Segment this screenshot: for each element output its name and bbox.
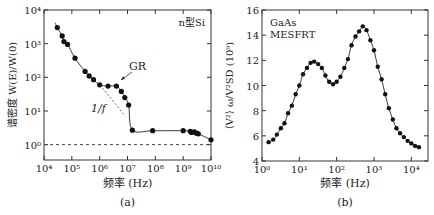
data-point <box>402 135 406 139</box>
data-point <box>126 102 131 107</box>
x-axis-label: 频率 (Hz) <box>320 176 369 190</box>
panel-label: (b) <box>337 196 353 209</box>
data-point <box>361 24 365 28</box>
chart-b: 10⁰10¹10²10³10⁴46810121416GaAsMESFRT频率 (… <box>224 5 428 209</box>
data-point <box>83 69 88 74</box>
x-tick-label: 10¹ <box>291 164 308 175</box>
one-over-f-label: 1/f <box>91 102 108 115</box>
data-point <box>208 137 213 142</box>
y-tick-label: 10 <box>246 81 259 92</box>
figure: 10⁴10⁵10⁶10⁷10⁸10⁹10¹⁰10⁰10¹10²10³10⁴n型S… <box>0 0 434 215</box>
x-tick-label: 10⁶ <box>91 163 108 174</box>
y-tick-label: 6 <box>253 131 259 142</box>
data-point <box>372 48 376 52</box>
data-point <box>297 83 301 87</box>
data-point <box>290 103 294 107</box>
data-point <box>353 34 357 38</box>
data-point <box>346 57 350 61</box>
data-point <box>387 106 391 110</box>
data-point <box>316 62 320 66</box>
data-point <box>119 89 124 94</box>
x-tick-label: 10⁹ <box>175 163 192 174</box>
data-point <box>72 56 77 61</box>
data-point <box>275 132 279 136</box>
data-point <box>130 128 135 133</box>
data-point <box>105 83 110 88</box>
data-point <box>349 43 353 47</box>
y-tick-label: 4 <box>253 156 259 167</box>
data-point <box>196 131 201 136</box>
data-point <box>60 33 65 38</box>
data-point <box>391 117 395 121</box>
data-point <box>271 137 275 141</box>
data-point <box>394 126 398 130</box>
gr-label: GR <box>129 60 147 73</box>
data-point <box>279 126 283 130</box>
device-label-line1: GaAs <box>270 17 296 28</box>
data-point <box>376 64 380 68</box>
y-tick-label: 16 <box>246 5 259 16</box>
data-point <box>87 73 92 78</box>
y-tick-label: 12 <box>246 55 259 66</box>
data-point <box>282 121 286 125</box>
data-point <box>417 145 421 149</box>
y-tick-label: 10³ <box>24 39 41 50</box>
data-point <box>364 28 368 32</box>
x-tick-label: 10³ <box>366 164 383 175</box>
data-point <box>286 111 290 115</box>
x-tick-label: 10⁴ <box>403 164 420 175</box>
y-tick-label: 10⁴ <box>24 5 41 16</box>
data-point <box>368 38 372 42</box>
data-point <box>181 128 186 133</box>
data-point <box>114 83 119 88</box>
data-point <box>338 74 342 78</box>
material-label: n型Si <box>179 16 206 28</box>
x-tick-label: 10⁸ <box>147 163 164 174</box>
y-tick-label: 10² <box>24 72 41 83</box>
data-point <box>65 42 70 47</box>
data-point <box>331 82 335 86</box>
data-point <box>122 95 127 100</box>
y-tick-label: 8 <box>253 106 259 117</box>
data-point <box>405 139 409 143</box>
data-point <box>398 131 402 135</box>
data-point <box>294 92 298 96</box>
data-point <box>150 128 155 133</box>
chart-a: 10⁴10⁵10⁶10⁷10⁸10⁹10¹⁰10⁰10¹10²10³10⁴n型S… <box>6 5 221 209</box>
data-point <box>55 25 60 30</box>
x-tick-label: 10¹⁰ <box>201 163 222 174</box>
data-point <box>91 77 96 82</box>
plot-frame <box>44 10 211 160</box>
data-point <box>409 141 413 145</box>
data-point <box>266 140 270 144</box>
data-point <box>342 66 346 70</box>
data-point <box>312 59 316 63</box>
x-tick-label: 10⁷ <box>119 163 136 174</box>
data-point <box>413 144 417 148</box>
fit-curve <box>55 23 211 140</box>
x-axis-label: 频率 (Hz) <box>103 176 152 190</box>
device-label-line2: MESFRT <box>270 29 316 40</box>
data-point <box>379 77 383 81</box>
y-tick-label: 14 <box>246 30 259 41</box>
data-point <box>97 82 102 87</box>
data-point <box>320 66 324 70</box>
data-point <box>323 73 327 77</box>
y-axis-label: 谱密度 W(E)/W(0) <box>6 42 18 128</box>
data-point <box>327 80 331 84</box>
panel-label: (a) <box>120 196 135 209</box>
y-tick-label: 10¹ <box>24 106 41 117</box>
data-point <box>334 80 338 84</box>
x-tick-label: 10² <box>328 164 345 175</box>
y-tick-label: 10⁰ <box>24 140 41 151</box>
x-tick-label: 10⁵ <box>63 163 80 174</box>
data-point <box>357 29 361 33</box>
data-point <box>305 66 309 70</box>
x-tick-label: 10⁴ <box>36 163 53 174</box>
data-point <box>301 72 305 76</box>
data-point <box>383 92 387 96</box>
y-axis-label: ⟨V²⟩ ω/V²SD (10⁹) <box>224 42 235 130</box>
